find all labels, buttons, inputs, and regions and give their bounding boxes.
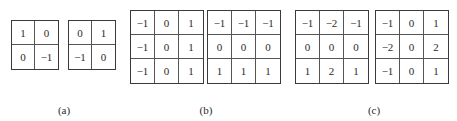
kernel-cell: −1 bbox=[208, 11, 232, 35]
kernel-cell: 0 bbox=[320, 35, 344, 59]
kernel-b1: −1 0 1 −1 0 1 −1 0 1 bbox=[130, 10, 204, 84]
kernel-c2: −1 0 1 −2 0 2 −1 0 1 bbox=[375, 10, 449, 84]
kernel-cell: −1 bbox=[296, 11, 320, 35]
kernel-cell: 1 bbox=[424, 59, 448, 83]
kernel-cell: 1 bbox=[12, 21, 35, 45]
kernel-cell: 0 bbox=[256, 35, 280, 59]
kernel-cell: 0 bbox=[69, 21, 92, 45]
kernel-c1: −1 −2 −1 0 0 0 1 2 1 bbox=[295, 10, 369, 84]
kernel-cell: 1 bbox=[344, 59, 368, 83]
kernel-cell: −1 bbox=[256, 11, 280, 35]
kernel-cell: 0 bbox=[232, 35, 256, 59]
kernel-cell: −1 bbox=[69, 45, 92, 69]
kernel-cell: 1 bbox=[179, 59, 203, 83]
kernel-cell: 2 bbox=[424, 35, 448, 59]
kernel-b2: −1 −1 −1 0 0 0 1 1 1 bbox=[207, 10, 281, 84]
kernel-cell: 0 bbox=[12, 45, 35, 69]
kernel-cell: 0 bbox=[35, 21, 58, 45]
kernel-cell: 0 bbox=[208, 35, 232, 59]
kernel-cell: 1 bbox=[424, 11, 448, 35]
kernel-cell: 0 bbox=[155, 59, 179, 83]
kernel-cell: 1 bbox=[92, 21, 115, 45]
kernel-a1: 1 0 0 −1 bbox=[11, 20, 59, 70]
kernel-cell: −1 bbox=[376, 59, 400, 83]
kernel-cell: −2 bbox=[376, 35, 400, 59]
kernel-cell: −1 bbox=[232, 11, 256, 35]
kernel-cell: 1 bbox=[256, 59, 280, 83]
kernel-cell: −1 bbox=[35, 45, 58, 69]
kernel-cell: 0 bbox=[344, 35, 368, 59]
caption-c: (c) bbox=[368, 104, 380, 116]
kernel-cell: −1 bbox=[376, 11, 400, 35]
kernel-cell: −2 bbox=[320, 11, 344, 35]
kernel-cell: 0 bbox=[400, 11, 424, 35]
kernel-cell: 1 bbox=[296, 59, 320, 83]
kernel-cell: 1 bbox=[179, 11, 203, 35]
kernel-cell: 2 bbox=[320, 59, 344, 83]
kernel-cell: −1 bbox=[131, 35, 155, 59]
kernel-cell: 1 bbox=[179, 35, 203, 59]
kernel-cell: 0 bbox=[155, 11, 179, 35]
kernel-cell: 0 bbox=[400, 35, 424, 59]
kernel-cell: −1 bbox=[131, 59, 155, 83]
kernel-cell: 1 bbox=[208, 59, 232, 83]
kernel-cell: −1 bbox=[344, 11, 368, 35]
caption-b: (b) bbox=[200, 104, 213, 116]
kernel-cell: 0 bbox=[400, 59, 424, 83]
kernel-cell: −1 bbox=[131, 11, 155, 35]
kernel-cell: 1 bbox=[232, 59, 256, 83]
kernel-cell: 0 bbox=[92, 45, 115, 69]
caption-a: (a) bbox=[58, 104, 70, 116]
kernel-a2: 0 1 −1 0 bbox=[68, 20, 116, 70]
kernel-cell: 0 bbox=[155, 35, 179, 59]
kernel-cell: 0 bbox=[296, 35, 320, 59]
